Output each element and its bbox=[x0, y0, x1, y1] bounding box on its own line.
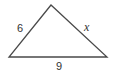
side-label-base: 9 bbox=[56, 60, 62, 72]
triangle-figure: 6 x 9 bbox=[0, 0, 113, 74]
side-label-right: x bbox=[83, 20, 90, 34]
triangle-shape bbox=[9, 5, 107, 57]
side-label-left: 6 bbox=[17, 22, 23, 34]
triangle-diagram: 6 x 9 bbox=[0, 0, 113, 74]
